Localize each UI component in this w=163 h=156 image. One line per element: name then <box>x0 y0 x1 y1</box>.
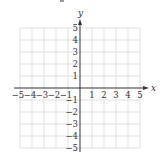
y-tick-label: 1 <box>73 71 78 81</box>
x-tick-label: −5 <box>12 90 25 100</box>
x-axis-label: x <box>151 83 156 93</box>
x-tick-label: −3 <box>36 90 49 100</box>
y-tick-label: −1 <box>65 95 78 105</box>
x-tick-label: 5 <box>137 90 142 100</box>
cropped-text-fragment <box>60 0 64 2</box>
x-tick-label: 2 <box>101 90 106 100</box>
y-tick-label: 5 <box>73 23 78 33</box>
x-tick-label: 3 <box>113 90 118 100</box>
y-tick-label: −3 <box>65 119 78 129</box>
y-tick-label: 3 <box>73 47 78 57</box>
y-tick-label: −2 <box>65 107 78 117</box>
y-tick-label: 2 <box>73 59 78 69</box>
y-tick-label: 4 <box>73 35 78 45</box>
x-axis-arrow-icon <box>143 86 149 90</box>
x-tick-label: −4 <box>24 90 37 100</box>
y-tick-label: −5 <box>65 143 78 153</box>
y-tick-label: −4 <box>65 131 78 141</box>
x-tick-label: −2 <box>48 90 61 100</box>
x-tick-label: 1 <box>89 90 94 100</box>
coordinate-plane: x y −5 −4 −3 −2 −1 1 2 3 4 5 5 4 3 2 1 −… <box>0 0 163 156</box>
x-tick-label: 4 <box>125 90 130 100</box>
y-axis-arrow-icon <box>78 19 82 25</box>
y-axis-label: y <box>77 8 84 18</box>
